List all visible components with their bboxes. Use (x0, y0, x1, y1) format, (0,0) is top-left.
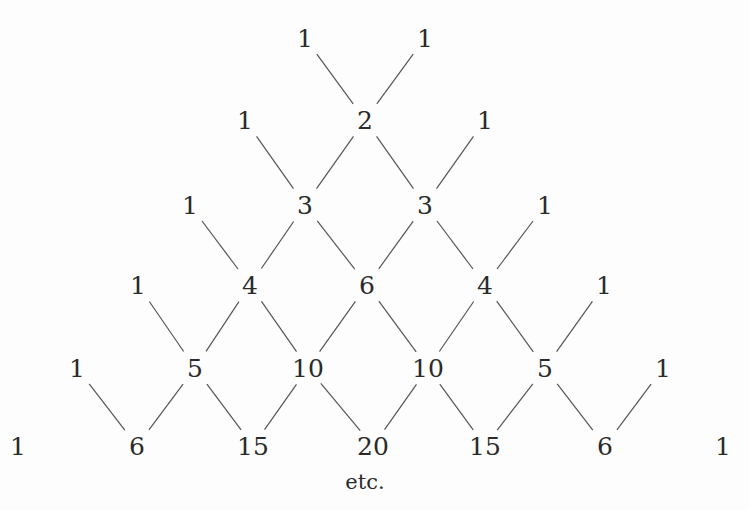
number-cell: 3 (417, 193, 433, 218)
connector-line (89, 384, 125, 430)
connector-line (557, 384, 593, 430)
number-cell: 6 (129, 434, 145, 459)
connector-line (377, 136, 414, 188)
number-cell: 5 (187, 356, 203, 381)
connector-line (320, 301, 356, 351)
connector-line (437, 136, 474, 188)
etc-label: etc. (345, 470, 384, 494)
number-cell: 6 (359, 273, 375, 298)
number-cell: 15 (469, 434, 501, 459)
connector-line (321, 383, 360, 430)
number-cell: 20 (357, 434, 389, 459)
number-cell: 1 (715, 434, 731, 459)
connector-line (385, 384, 417, 429)
number-cell: 1 (417, 26, 433, 51)
connector-line (379, 221, 414, 269)
number-cell: 1 (655, 356, 671, 381)
connector-line (257, 136, 294, 188)
connector-line (557, 301, 593, 351)
number-cell: 5 (537, 356, 553, 381)
connector-line (261, 221, 293, 268)
connector-line (202, 221, 238, 269)
number-cell: 6 (597, 434, 613, 459)
number-cell: 1 (130, 273, 146, 298)
connector-line (617, 384, 651, 430)
connector-line (265, 384, 297, 429)
number-cell: 10 (412, 356, 444, 381)
number-cell: 2 (357, 108, 373, 133)
number-cell: 1 (237, 108, 253, 133)
connector-line (437, 221, 473, 269)
connector-line (379, 301, 416, 352)
number-cell: 1 (537, 193, 553, 218)
connector-line (317, 136, 354, 188)
connector-line (497, 221, 533, 269)
connector-line (439, 301, 473, 351)
connector-line (261, 301, 296, 351)
number-cell: 1 (477, 108, 493, 133)
number-cell: 4 (242, 273, 258, 298)
number-cell: 1 (596, 273, 612, 298)
connector-line (317, 221, 354, 269)
number-cell: 15 (237, 434, 269, 459)
connector-line (377, 54, 413, 104)
number-cell: 1 (297, 26, 313, 51)
connector-line (207, 384, 241, 430)
connector-line (149, 301, 183, 351)
number-cell: 3 (297, 193, 313, 218)
connector-line (497, 301, 534, 352)
connector-line (149, 384, 183, 430)
number-cell: 1 (10, 434, 26, 459)
pascal-triangle-diagram: 11121133114641151010511615201561 etc. (0, 0, 749, 510)
connector-line (497, 384, 533, 430)
number-cell: 1 (69, 356, 85, 381)
number-cell: 10 (292, 356, 324, 381)
number-cell: 1 (182, 193, 198, 218)
connector-line (206, 302, 239, 352)
connector-line (317, 54, 353, 104)
number-cell: 4 (477, 273, 493, 298)
connector-line (440, 384, 473, 430)
